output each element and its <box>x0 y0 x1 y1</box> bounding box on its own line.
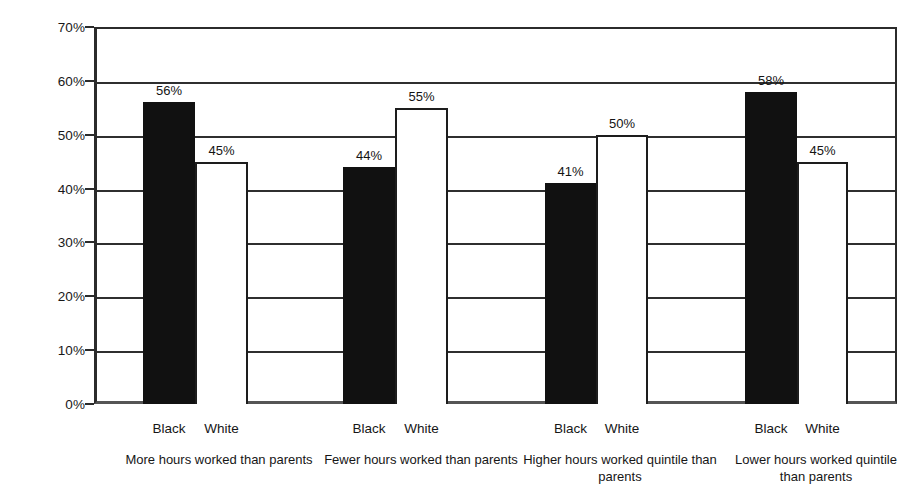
category-label-2: Fewer hours worked than parents <box>316 451 526 468</box>
y-axis-tick-mark <box>85 80 94 82</box>
gridline <box>97 190 895 192</box>
series-tick-black-group-4: Black <box>754 421 787 436</box>
series-tick-black-group-2: Black <box>352 421 385 436</box>
y-axis-tick-label: 30% <box>29 235 85 250</box>
series-tick-white-group-2: White <box>404 421 439 436</box>
gridline <box>97 136 895 138</box>
category-label-3: Higher hours worked quintile than parent… <box>511 451 729 485</box>
series-tick-white-group-1: White <box>204 421 239 436</box>
gridline <box>97 351 895 353</box>
y-axis-tick-mark <box>85 403 94 405</box>
y-axis-tick-mark <box>85 295 94 297</box>
y-axis-tick-label: 60% <box>29 73 85 88</box>
y-axis-tick-label: 70% <box>29 20 85 35</box>
y-axis-tick-label: 20% <box>29 289 85 304</box>
y-axis-tick-mark <box>85 188 94 190</box>
plot-area <box>94 27 897 404</box>
category-label-1: More hours worked than parents <box>114 451 324 468</box>
y-axis-tick-label: 50% <box>29 127 85 142</box>
y-axis: 70%60%50%40%30%20%10%0% <box>20 0 85 492</box>
gridline <box>97 82 895 84</box>
y-axis-tick-label: 10% <box>29 343 85 358</box>
category-label-4: Lower hours worked quintile than parents <box>721 451 911 485</box>
bar-chart: 70%60%50%40%30%20%10%0% 56%45%44%55%41%5… <box>0 0 921 492</box>
series-tick-labels: BlackWhiteBlackWhiteBlackWhiteBlackWhite <box>0 421 921 441</box>
y-axis-tick-mark <box>85 134 94 136</box>
category-labels: More hours worked than parentsFewer hour… <box>0 451 921 492</box>
y-axis-tick-label: 0% <box>29 397 85 412</box>
series-tick-black-group-1: Black <box>152 421 185 436</box>
y-axis-tick-mark <box>85 26 94 28</box>
series-tick-white-group-4: White <box>805 421 840 436</box>
y-axis-tick-label: 40% <box>29 181 85 196</box>
gridlines <box>97 29 895 401</box>
gridline <box>97 243 895 245</box>
series-tick-white-group-3: White <box>605 421 640 436</box>
y-axis-tick-mark <box>85 241 94 243</box>
gridline <box>97 297 895 299</box>
series-tick-black-group-3: Black <box>554 421 587 436</box>
y-axis-tick-mark <box>85 349 94 351</box>
